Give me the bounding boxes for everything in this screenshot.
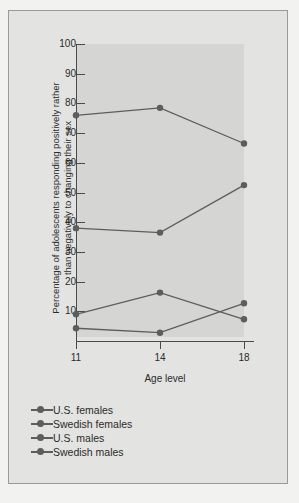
data-point [73,325,79,331]
legend-item-label: Swedish males [53,446,124,458]
data-point [157,229,163,235]
legend-marker-dot [37,420,44,427]
data-point [157,329,163,335]
legend-item: Swedish females [31,417,231,431]
legend-item-label: U.S. females [53,404,113,416]
data-point [241,316,247,322]
legend-marker-icon [31,405,53,415]
legend-item: Swedish males [31,445,231,459]
series-swedish-males [73,300,247,336]
legend-marker-dot [37,406,44,413]
data-point [157,289,163,295]
legend-marker-icon [31,447,53,457]
legend-marker-dot [37,448,44,455]
chart-figure: 102030405060708090100 111418 Percentage … [8,10,288,484]
data-point [73,225,79,231]
legend-marker-icon [31,419,53,429]
data-point [73,112,79,118]
legend-marker-icon [31,433,53,443]
data-point [241,140,247,146]
series-line [76,108,244,144]
legend-item: U.S. males [31,431,231,445]
chart-legend: U.S. femalesSwedish femalesU.S. malesSwe… [31,403,231,459]
legend-item: U.S. females [31,403,231,417]
series-u-s-males [73,289,247,322]
data-point [241,300,247,306]
data-point [241,182,247,188]
series-swedish-females [73,182,247,236]
series-u-s-females [73,105,247,147]
legend-marker-dot [37,434,44,441]
legend-item-label: U.S. males [53,432,104,444]
data-point [157,105,163,111]
data-point [73,311,79,317]
legend-item-label: Swedish females [53,418,132,430]
series-line [76,185,244,233]
series-line [76,293,244,320]
